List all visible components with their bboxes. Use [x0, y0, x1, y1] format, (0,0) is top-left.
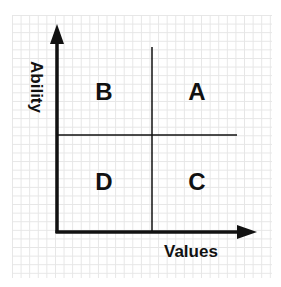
x-axis-label: Values — [164, 243, 218, 260]
quadrant-label-a: A — [188, 80, 205, 104]
quadrant-label-d: D — [95, 170, 112, 194]
y-axis-arrowhead-icon — [50, 24, 64, 44]
y-axis-label: Ability — [28, 61, 45, 113]
x-axis-arrowhead-icon — [237, 225, 257, 239]
quadrant-label-b: B — [95, 80, 112, 104]
quadrant-axes — [0, 0, 281, 287]
quadrant-label-c: C — [188, 170, 205, 194]
